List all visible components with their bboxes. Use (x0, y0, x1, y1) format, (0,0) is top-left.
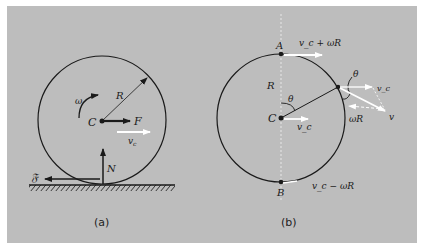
caption-a: (a) (94, 216, 109, 229)
label-center-b: C (268, 112, 277, 125)
label-center-a: C (88, 116, 97, 129)
rolling-wheel-diagram: C R ω F vc N 𝔉 (a) A B C R (0, 0, 424, 252)
label-radius-a: R (115, 90, 124, 101)
label-rim-translation: v_c (377, 84, 391, 93)
rim-point (336, 85, 341, 90)
label-normal-force: N (106, 163, 117, 174)
point-b (279, 180, 284, 185)
label-friction-force: 𝔉 (31, 171, 40, 184)
label-center-velocity-a: vc (128, 136, 137, 147)
label-bottom-velocity: v_c − ωR (312, 181, 354, 192)
point-a (279, 52, 284, 57)
label-center-velocity-b: v_c (297, 122, 312, 133)
label-rim-resultant: v (389, 112, 394, 122)
center-point-b (279, 116, 284, 121)
label-top-velocity: v_c + ωR (299, 38, 341, 49)
caption-b: (b) (281, 216, 297, 229)
panel-a: C R ω F vc N 𝔉 (a) (29, 56, 175, 229)
label-radius-b: R (266, 80, 275, 91)
label-theta-center: θ (288, 94, 294, 104)
label-point-b: B (276, 187, 284, 198)
angle-arc-center (281, 103, 295, 111)
label-rim-rotation: ωR (349, 114, 363, 124)
label-omega: ω (75, 96, 83, 106)
ground-hatching (29, 185, 175, 191)
panel-b: A B C R θ θ v_c + ωR v_c − ωR v_c v_c ωR… (217, 14, 394, 229)
label-point-a: A (275, 40, 283, 51)
label-theta-rim: θ (353, 69, 359, 79)
angle-arc-rim (343, 77, 352, 99)
label-applied-force: F (133, 115, 142, 128)
